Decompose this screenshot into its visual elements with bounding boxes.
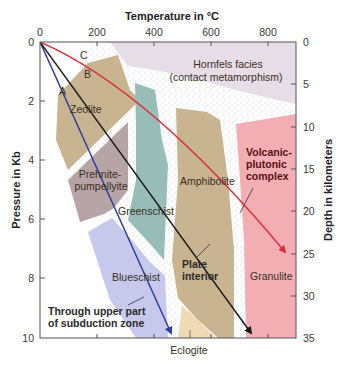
label-blueschist: Blueschist (112, 271, 160, 283)
label-complex: complex (246, 170, 289, 182)
y-tick-6: 6 (28, 213, 34, 225)
depth-tick-25: 25 (303, 248, 315, 260)
y-right-axis-title: Depth in kilometers (322, 139, 334, 241)
depth-tick-20: 20 (303, 205, 315, 217)
label-volcanic: Volcanic- (246, 146, 292, 158)
depth-tick-35: 35 (303, 332, 315, 344)
depth-tick-15: 15 (303, 163, 315, 175)
label-amphibolite: Amphibolite (180, 175, 235, 187)
depth-tick-10: 10 (303, 121, 315, 133)
label-eclogite: Eclogite (170, 344, 208, 356)
x-tick-0: 0 (37, 26, 43, 38)
label-zeolite: Zeolite (70, 103, 102, 115)
y-tick-8: 8 (28, 272, 34, 284)
label-prehnite: Prehnite- (79, 168, 122, 180)
x-tick-800: 800 (259, 26, 277, 38)
label-plutonic: plutonic (246, 158, 287, 170)
label-interior: interior (182, 270, 218, 282)
x-tick-200: 200 (88, 26, 106, 38)
y-tick-2: 2 (28, 95, 34, 107)
y-left-axis (40, 101, 45, 278)
x-tick-400: 400 (145, 26, 163, 38)
label-greenschist: Greenschist (118, 205, 174, 217)
label-granulite: Granulite (250, 270, 293, 282)
y-tick-4: 4 (28, 154, 34, 166)
path-label-c: C (80, 49, 88, 61)
depth-tick-5: 5 (303, 78, 309, 90)
x-tick-600: 600 (202, 26, 220, 38)
label-subduction-2: of subduction zone (48, 317, 144, 329)
label-pumpellyite: pumpellyite (74, 180, 127, 192)
x-axis-title: Temperature in °C (125, 10, 219, 22)
label-plate: Plate (182, 258, 207, 270)
depth-tick-30: 30 (303, 290, 315, 302)
y-tick-10: 10 (22, 332, 34, 344)
y-tick-0: 0 (28, 36, 34, 48)
depth-tick-0: 0 (303, 36, 309, 48)
label-hornfels-sub: (contact metamorphism) (169, 71, 282, 83)
path-label-b: B (84, 68, 91, 80)
path-label-a: A (59, 85, 66, 97)
y-left-axis-title: Pressure in Kb (10, 151, 22, 229)
label-hornfels: Hornfels facies (193, 58, 262, 70)
label-subduction-1: Through upper part (48, 305, 146, 317)
facies-diagram: Temperature in °C 0 200 400 600 800 0 2 … (0, 0, 344, 367)
